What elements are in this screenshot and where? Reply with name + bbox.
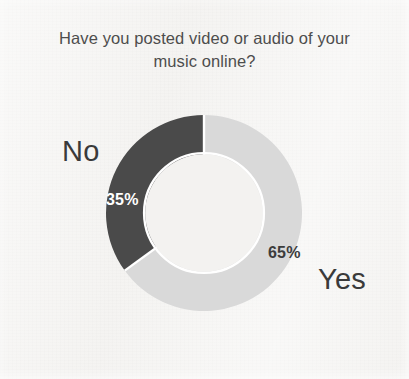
category-label-yes: Yes (318, 265, 366, 294)
donut-hole (145, 154, 263, 272)
donut-svg (104, 113, 304, 313)
category-label-no: No (62, 137, 99, 166)
chart-title: Have you posted video or audio of your m… (26, 27, 383, 73)
donut-chart (104, 113, 304, 313)
value-label-yes: 65% (268, 245, 301, 261)
chart-page: Have you posted video or audio of your m… (0, 0, 409, 379)
value-label-no: 35% (106, 192, 139, 208)
